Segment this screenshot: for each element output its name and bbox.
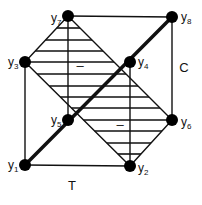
vertex-y7	[62, 10, 74, 22]
axis-label-c: C	[179, 60, 188, 75]
cube-diagram: y1y2y3y4y5y6y7y8 – – C T	[0, 0, 202, 205]
edge-y7-y3	[25, 16, 68, 62]
axis-label-t: T	[68, 178, 76, 193]
vertex-y3	[19, 56, 31, 68]
sign-mark-upper: –	[76, 58, 84, 73]
vertex-y1	[19, 159, 31, 171]
edge-y7-y8	[68, 16, 172, 17]
sign-mark-lower: –	[116, 117, 124, 132]
vertex-y4	[124, 56, 136, 68]
vertex-label-y5: y5	[51, 113, 62, 129]
vertex-label-y4: y4	[138, 55, 149, 71]
vertex-label-y7: y7	[51, 11, 62, 27]
vertex-label-y1: y1	[8, 158, 19, 174]
vertex-label-y6: y6	[181, 115, 192, 131]
vertex-label-y8: y8	[181, 10, 192, 26]
vertex-label-y2: y2	[138, 161, 149, 177]
vertex-y6	[166, 114, 178, 126]
vertex-label-y3: y3	[8, 55, 19, 71]
edge-y1-y2	[25, 165, 130, 166]
cube-edges	[25, 16, 172, 166]
vertex-y2	[124, 160, 136, 172]
vertex-y8	[166, 11, 178, 23]
vertex-y5	[62, 114, 74, 126]
